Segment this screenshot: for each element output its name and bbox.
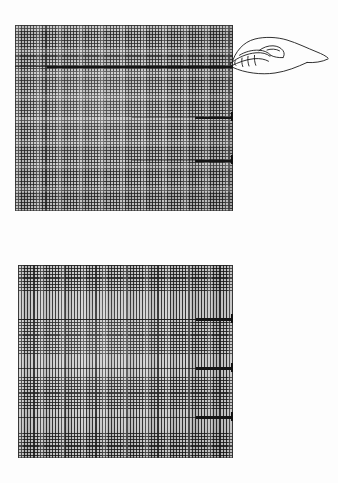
woven-mesh-swatch-banded [18,265,233,458]
figure-bottom [0,240,338,483]
hand-icon [229,28,329,90]
weave-texture-verticals [18,265,233,458]
weave-texture [15,25,233,211]
figure-plate [0,0,338,483]
figure-top [0,0,338,240]
hand-pointing-illustration [229,28,329,90]
woven-mesh-swatch-full [15,25,233,211]
